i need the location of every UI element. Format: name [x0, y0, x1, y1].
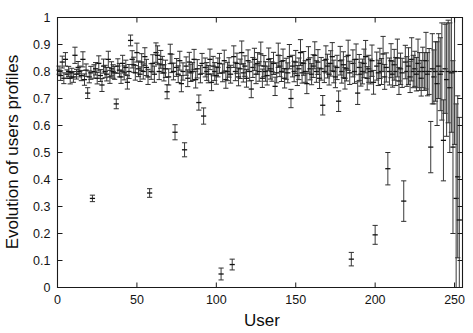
y-tick-label: 0.7 [33, 92, 50, 106]
y-tick-label: 0.6 [33, 119, 50, 133]
y-axis-label: Evolution of users profiles [3, 55, 22, 250]
y-tick-label: 0.9 [33, 38, 50, 52]
x-tick-label: 0 [54, 293, 61, 307]
x-tick-label: 150 [285, 293, 306, 307]
x-tick-label: 250 [444, 293, 465, 307]
y-tick-label: 0.2 [33, 227, 50, 241]
figure-container: 050100150200250 00.10.20.30.40.50.60.70.… [0, 0, 473, 333]
y-tick-label: 0 [44, 281, 51, 295]
x-tick-label: 50 [130, 293, 144, 307]
x-tick-label: 200 [365, 293, 386, 307]
y-tick-label: 0.8 [33, 65, 50, 79]
y-tick-label: 0.1 [33, 254, 50, 268]
x-axis-label: User [244, 311, 280, 330]
y-tick-label: 1 [44, 11, 51, 25]
scatter-plot-errorbars: 050100150200250 00.10.20.30.40.50.60.70.… [0, 0, 473, 333]
y-tick-label: 0.4 [33, 173, 50, 187]
plot-background [0, 0, 473, 333]
y-tick-label: 0.3 [33, 200, 50, 214]
y-tick-label: 0.5 [33, 146, 50, 160]
x-tick-label: 100 [206, 293, 227, 307]
